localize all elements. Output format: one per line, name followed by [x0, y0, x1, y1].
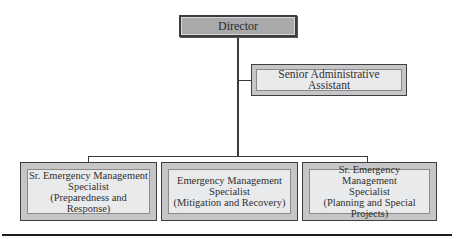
bus-connector — [88, 156, 368, 157]
specialist-node-mitigation: Emergency Management Specialist (Mitigat… — [161, 162, 298, 221]
bottom-rule — [2, 234, 452, 236]
director-node: Director — [179, 15, 297, 37]
specialist-label-planning: Sr. Emergency Management Specialist (Pla… — [310, 164, 429, 219]
assistant-connector — [237, 80, 252, 81]
specialist-label-preparedness: Sr. Emergency Management Specialist (Pre… — [28, 170, 149, 214]
assistant-node: Senior Administrative Assistant — [251, 64, 407, 96]
specialist-label-mitigation: Emergency Management Specialist (Mitigat… — [174, 175, 286, 208]
director-vertical-connector — [237, 36, 239, 157]
specialist-node-planning: Sr. Emergency Management Specialist (Pla… — [302, 162, 437, 221]
director-label: Director — [218, 19, 258, 34]
specialist-node-preparedness: Sr. Emergency Management Specialist (Pre… — [20, 162, 157, 221]
assistant-label: Senior Administrative Assistant — [257, 69, 401, 91]
